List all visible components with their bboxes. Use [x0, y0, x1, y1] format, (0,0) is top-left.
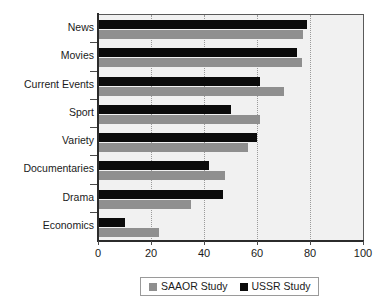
bar-saaor-drama — [98, 200, 191, 209]
bar-group — [98, 15, 363, 43]
bar-group — [98, 100, 363, 128]
y-axis-tick — [90, 71, 97, 72]
y-axis-line — [97, 13, 99, 241]
bar-saaor-current-events — [98, 87, 284, 96]
x-axis-tick-80 — [310, 241, 311, 245]
x-axis-tick-40 — [204, 241, 205, 245]
bar-saaor-variety — [98, 143, 248, 152]
legend-entry-ussr-study: USSR Study — [240, 281, 311, 292]
bar-group — [98, 213, 363, 241]
x-axis-label-100: 100 — [346, 247, 380, 259]
bar-group — [98, 185, 363, 213]
bar-saaor-movies — [98, 58, 302, 67]
bar-ussr-current-events — [98, 77, 260, 86]
bar-ussr-movies — [98, 48, 297, 57]
category-label-news: News — [68, 22, 94, 33]
x-axis-tick-0 — [98, 241, 99, 245]
x-axis-tick-100 — [363, 241, 364, 245]
bar-group — [98, 128, 363, 156]
black-swatch-icon — [240, 283, 248, 291]
bar-ussr-sport — [98, 105, 231, 114]
category-label-movies: Movies — [61, 50, 94, 61]
category-label-current-events: Current Events — [24, 79, 94, 90]
y-axis-tick — [90, 184, 97, 185]
x-axis-label-40: 40 — [187, 247, 221, 259]
bar-group — [98, 156, 363, 184]
y-axis-tick — [90, 99, 97, 100]
chart-legend: SAAOR StudyUSSR Study — [140, 277, 319, 296]
bar-saaor-sport — [98, 115, 260, 124]
bar-ussr-drama — [98, 190, 223, 199]
x-axis-tick-60 — [257, 241, 258, 245]
category-label-drama: Drama — [62, 192, 94, 203]
bar-ussr-documentaries — [98, 161, 209, 170]
y-axis-tick — [90, 155, 97, 156]
y-axis-tick — [90, 42, 97, 43]
plot-area — [98, 14, 364, 241]
x-axis-tick-20 — [151, 241, 152, 245]
x-axis-label-0: 0 — [81, 247, 115, 259]
legend-label: USSR Study — [252, 281, 311, 292]
bar-ussr-news — [98, 20, 307, 29]
bar-ussr-economics — [98, 218, 125, 227]
category-label-sport: Sport — [69, 107, 94, 118]
x-axis-label-60: 60 — [240, 247, 274, 259]
x-axis-line — [97, 240, 364, 242]
y-axis-tick — [90, 127, 97, 128]
x-axis-label-20: 20 — [134, 247, 168, 259]
legend-label: SAAOR Study — [161, 281, 228, 292]
bar-chart-figure: NewsMoviesCurrent EventsSportVarietyDocu… — [0, 0, 384, 303]
bar-saaor-documentaries — [98, 171, 225, 180]
legend-entry-saaor-study: SAAOR Study — [149, 281, 228, 292]
bar-saaor-news — [98, 30, 303, 39]
y-axis-tick — [90, 212, 97, 213]
category-label-variety: Variety — [62, 135, 94, 146]
bar-group — [98, 72, 363, 100]
bar-group — [98, 43, 363, 71]
x-axis-label-80: 80 — [293, 247, 327, 259]
bar-saaor-economics — [98, 228, 159, 237]
gray-swatch-icon — [149, 283, 157, 291]
category-label-documentaries: Documentaries — [23, 163, 94, 174]
bar-ussr-variety — [98, 133, 257, 142]
category-label-economics: Economics — [43, 220, 94, 231]
